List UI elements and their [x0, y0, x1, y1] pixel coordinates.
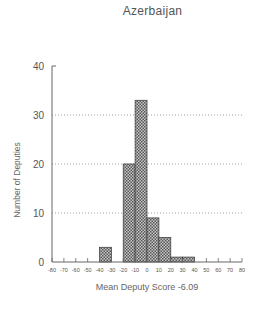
x-tick-label: -70 — [60, 267, 68, 273]
histogram-bar — [171, 257, 183, 262]
x-tick-label: 0 — [145, 267, 148, 273]
x-tick-label: 60 — [215, 267, 221, 273]
x-tick-label: 20 — [168, 267, 174, 273]
x-axis-label: Mean Deputy Score -6.09 — [52, 282, 242, 292]
histogram-bar — [135, 100, 147, 262]
histogram-bar — [123, 164, 135, 262]
y-tick-label: 10 — [33, 208, 45, 219]
histogram-bar — [147, 218, 159, 262]
histogram-bar — [183, 257, 195, 262]
y-tick-label: 20 — [33, 159, 45, 170]
y-axis-label-wrap: Number of Deputies — [10, 125, 24, 235]
x-tick-labels: -80-70-60-50-40-30-20-100102030405060708… — [48, 267, 245, 273]
x-tick-label: 50 — [203, 267, 209, 273]
x-tick-label: -20 — [119, 267, 127, 273]
y-axis-label: Number of Deputies — [12, 142, 22, 218]
x-tick-label: 30 — [180, 267, 186, 273]
x-tick-label: -60 — [72, 267, 80, 273]
x-tick-label: -40 — [96, 267, 104, 273]
x-tick-label: 40 — [191, 267, 197, 273]
histogram-bar — [159, 238, 171, 263]
histogram-bar — [100, 247, 112, 262]
y-tick-labels: 010203040 — [33, 61, 45, 268]
x-tick-label: 80 — [239, 267, 245, 273]
x-tick-label: -50 — [84, 267, 92, 273]
x-tick-label: -30 — [107, 267, 115, 273]
y-tick-label: 0 — [38, 257, 44, 268]
x-tick-label: -80 — [48, 267, 56, 273]
x-tick-label: -10 — [131, 267, 139, 273]
y-tick-label: 40 — [33, 61, 45, 72]
histogram-plot: 010203040 -80-70-60-50-40-30-20-10010203… — [0, 0, 265, 311]
x-tick-label: 10 — [156, 267, 162, 273]
histogram-bars — [100, 100, 195, 262]
y-tick-label: 30 — [33, 110, 45, 121]
x-tick-label: 70 — [227, 267, 233, 273]
